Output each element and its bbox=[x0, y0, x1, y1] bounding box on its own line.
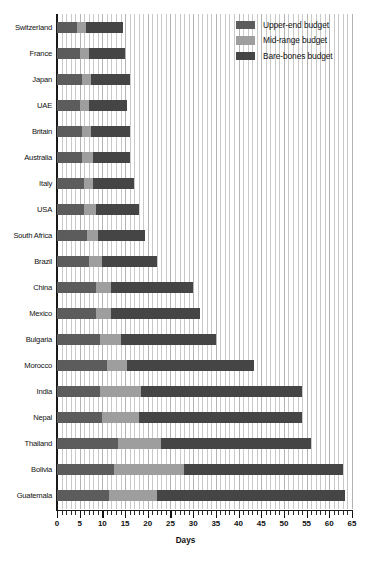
x-tick-major bbox=[125, 511, 126, 518]
bar-segment bbox=[84, 178, 93, 189]
x-tick-minor bbox=[334, 511, 335, 515]
bar-segment bbox=[127, 360, 254, 371]
x-tick-minor bbox=[152, 511, 153, 515]
bar-row: UAE bbox=[0, 92, 371, 118]
legend-item[interactable]: Upper-end budget bbox=[236, 20, 368, 30]
bar-segment bbox=[84, 204, 95, 215]
bar-segment bbox=[91, 126, 130, 137]
bar-row: Australia bbox=[0, 144, 371, 170]
x-tick-minor bbox=[202, 511, 203, 515]
legend-item[interactable]: Mid-range budget bbox=[236, 36, 368, 46]
bar-row: Bulgaria bbox=[0, 327, 371, 353]
legend-item[interactable]: Bare-bones budget bbox=[236, 51, 368, 61]
bar-row: Britain bbox=[0, 118, 371, 144]
x-tick-minor bbox=[275, 511, 276, 515]
bar-segment bbox=[111, 308, 200, 319]
bar-row: China bbox=[0, 275, 371, 301]
x-tick-label: 50 bbox=[279, 519, 288, 528]
bar-row: Bolivia bbox=[0, 457, 371, 483]
bar-segment bbox=[57, 334, 100, 345]
bar-segment bbox=[57, 204, 84, 215]
bar-segment bbox=[57, 490, 109, 501]
x-tick-label: 35 bbox=[211, 519, 220, 528]
x-tick-minor bbox=[184, 511, 185, 515]
bar-segment bbox=[57, 386, 100, 397]
x-tick-minor bbox=[175, 511, 176, 515]
x-tick-minor bbox=[243, 511, 244, 515]
x-tick-minor bbox=[279, 511, 280, 515]
bar-segment bbox=[139, 412, 302, 423]
bar-chart: SwitzerlandFranceJapanUAEBritainAustrali… bbox=[0, 0, 371, 577]
stacked-bar bbox=[57, 100, 127, 111]
x-tick-major bbox=[284, 511, 285, 518]
x-tick-minor bbox=[270, 511, 271, 515]
stacked-bar bbox=[57, 464, 343, 475]
x-tick-label: 5 bbox=[77, 519, 81, 528]
x-tick-minor bbox=[234, 511, 235, 515]
bar-segment bbox=[91, 74, 130, 85]
y-axis-label: Mexico bbox=[0, 309, 52, 318]
bar-segment bbox=[98, 230, 146, 241]
bar-segment bbox=[121, 334, 216, 345]
x-tick-minor bbox=[166, 511, 167, 515]
stacked-bar bbox=[57, 230, 145, 241]
x-tick-major bbox=[102, 511, 103, 518]
x-tick-minor bbox=[347, 511, 348, 515]
bar-segment bbox=[57, 22, 77, 33]
bar-row: Brazil bbox=[0, 248, 371, 274]
x-tick-major bbox=[307, 511, 308, 518]
bar-segment bbox=[96, 308, 112, 319]
bar-row: Italy bbox=[0, 170, 371, 196]
bar-segment bbox=[80, 100, 89, 111]
bar-segment bbox=[184, 464, 343, 475]
x-tick-minor bbox=[343, 511, 344, 515]
x-tick-label: 25 bbox=[166, 519, 175, 528]
bar-segment bbox=[107, 360, 127, 371]
x-tick-major bbox=[352, 511, 353, 518]
stacked-bar bbox=[57, 282, 193, 293]
y-axis-label: Nepal bbox=[0, 413, 52, 422]
bar-segment bbox=[57, 230, 87, 241]
y-axis-label: South Africa bbox=[0, 231, 52, 240]
bar-segment bbox=[57, 464, 114, 475]
bar-row: USA bbox=[0, 196, 371, 222]
bar-segment bbox=[82, 152, 93, 163]
bar-segment bbox=[93, 152, 129, 163]
x-tick-major bbox=[261, 511, 262, 518]
x-tick-major bbox=[80, 511, 81, 518]
x-tick-label: 45 bbox=[257, 519, 266, 528]
x-tick-major bbox=[193, 511, 194, 518]
legend-swatch bbox=[236, 36, 255, 45]
stacked-bar bbox=[57, 204, 139, 215]
y-axis-label: Guatemala bbox=[0, 491, 52, 500]
x-tick-minor bbox=[116, 511, 117, 515]
bar-segment bbox=[57, 126, 82, 137]
bar-segment bbox=[82, 126, 91, 137]
bar-segment bbox=[93, 178, 134, 189]
x-tick-label: 40 bbox=[234, 519, 243, 528]
bar-segment bbox=[57, 282, 96, 293]
stacked-bar bbox=[57, 178, 134, 189]
stacked-bar bbox=[57, 308, 200, 319]
bar-segment bbox=[96, 204, 139, 215]
y-axis-label: Switzerland bbox=[0, 23, 52, 32]
x-tick-minor bbox=[252, 511, 253, 515]
y-axis-label: France bbox=[0, 49, 52, 58]
x-tick-minor bbox=[288, 511, 289, 515]
stacked-bar bbox=[57, 438, 311, 449]
bar-segment bbox=[77, 22, 86, 33]
x-tick-minor bbox=[225, 511, 226, 515]
bar-segment bbox=[57, 438, 118, 449]
legend-swatch bbox=[236, 21, 255, 30]
bar-segment bbox=[102, 256, 156, 267]
bar-segment bbox=[57, 152, 82, 163]
bar-segment bbox=[87, 230, 98, 241]
x-tick-major bbox=[239, 511, 240, 518]
bar-row: Guatemala bbox=[0, 483, 371, 509]
stacked-bar bbox=[57, 22, 123, 33]
x-tick-minor bbox=[248, 511, 249, 515]
x-tick-label: 10 bbox=[98, 519, 107, 528]
x-tick-minor bbox=[89, 511, 90, 515]
y-axis-label: China bbox=[0, 283, 52, 292]
x-tick-minor bbox=[198, 511, 199, 515]
